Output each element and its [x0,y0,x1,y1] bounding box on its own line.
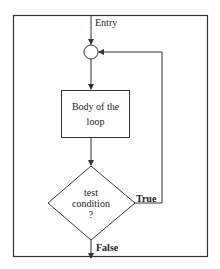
true-label: True [136,193,156,204]
condition-label: test condition ? [61,187,121,220]
junction-circle [84,45,98,59]
loop-body-label-line2: loop [61,116,130,127]
entry-label: Entry [95,17,117,28]
condition-label-line1: test [61,187,121,198]
loop-body-label: Body of the loop [61,101,130,127]
condition-label-line2: condition [61,198,121,209]
condition-label-line3: ? [61,209,121,220]
loop-body-label-line1: Body of the [61,101,130,112]
flowchart-canvas [0,0,220,269]
false-label: False [96,242,118,253]
